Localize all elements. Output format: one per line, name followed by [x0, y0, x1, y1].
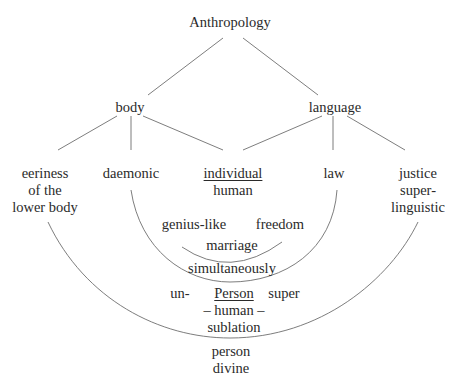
node-body: body: [116, 99, 145, 116]
node-justice: justice super- linguistic: [391, 165, 445, 216]
label-body: body: [116, 99, 145, 116]
label-daemonic: daemonic: [103, 165, 159, 182]
node-genius-like: genius-like: [162, 216, 226, 233]
label-divine: divine: [212, 360, 251, 377]
node-person: Person – human – sublation: [203, 285, 264, 336]
label-genius-like: genius-like: [162, 216, 226, 233]
edge-language-individual: [243, 116, 322, 150]
label-person: Person: [203, 285, 264, 302]
node-anthropology: Anthropology: [189, 14, 270, 31]
node-language: language: [309, 99, 361, 116]
edge-body-eeriness: [58, 116, 117, 150]
label-individual: individual: [204, 165, 263, 182]
label-person-lower: person: [212, 343, 251, 360]
edge-anthropology-body: [148, 38, 223, 95]
edge-body-individual: [143, 116, 223, 150]
label-marriage: marriage: [206, 237, 258, 254]
label-of-the: of the: [12, 182, 78, 199]
node-person-divine: person divine: [212, 343, 251, 377]
label-human-dashes: – human –: [203, 302, 264, 319]
label-anthropology: Anthropology: [189, 14, 270, 31]
node-marriage: marriage: [206, 237, 258, 254]
label-justice: justice: [391, 165, 445, 182]
label-linguistic: linguistic: [391, 199, 445, 216]
node-simultaneously: simultaneously: [188, 260, 276, 277]
label-lower-body: lower body: [12, 199, 78, 216]
node-super: super: [268, 285, 299, 302]
node-freedom: freedom: [256, 216, 304, 233]
label-law: law: [324, 165, 345, 182]
node-law: law: [324, 165, 345, 182]
label-freedom: freedom: [256, 216, 304, 233]
node-eeriness: eeriness of the lower body: [12, 165, 78, 216]
node-un: un-: [170, 285, 189, 302]
label-super-right: super: [268, 285, 299, 302]
label-sublation: sublation: [203, 319, 264, 336]
label-super: super-: [391, 182, 445, 199]
node-daemonic: daemonic: [103, 165, 159, 182]
label-un: un-: [170, 285, 189, 302]
node-individual: individual human: [204, 165, 263, 199]
edge-language-justice: [347, 116, 405, 150]
label-simultaneously: simultaneously: [188, 260, 276, 277]
label-eeriness: eeriness: [12, 165, 78, 182]
edge-anthropology-language: [243, 38, 318, 95]
label-human: human: [204, 182, 263, 199]
label-language: language: [309, 99, 361, 116]
anthropology-diagram: Anthropology body language eeriness of t…: [0, 0, 461, 382]
